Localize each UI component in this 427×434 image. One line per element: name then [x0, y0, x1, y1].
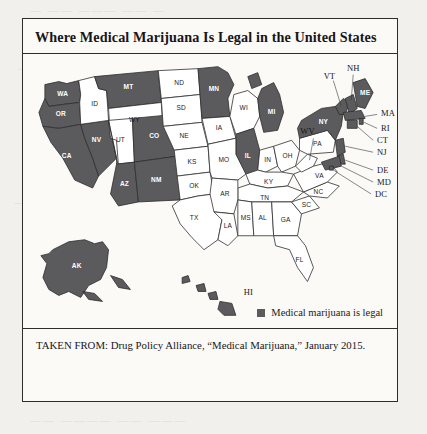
state-label-NE: NE — [179, 132, 189, 139]
state-RI[interactable] — [359, 118, 363, 124]
state-label-MA: MA — [381, 108, 396, 118]
leader-line-NJ — [345, 146, 373, 152]
figure-frame: Where Medical Marijuana Is Legal in the … — [22, 18, 398, 402]
state-label-CT: CT — [377, 135, 389, 145]
leader-line-VT — [333, 81, 341, 107]
state-label-MD: MD — [377, 177, 391, 187]
state-label-KY: KY — [264, 178, 274, 185]
us-choropleth-map: WA OR CA NV ID MT WY UT CO AZ NM ND SD N… — [23, 54, 397, 328]
state-label-TN: TN — [260, 194, 269, 201]
state-label-VA: VA — [315, 172, 324, 179]
state-label-NY: NY — [319, 118, 329, 125]
legend-label-legal: Medical marijuana is legal — [271, 307, 383, 318]
leader-line-CT — [357, 126, 373, 140]
state-label-OH: OH — [282, 152, 292, 159]
state-CT[interactable] — [347, 120, 357, 128]
state-label-NV: NV — [92, 136, 102, 143]
state-label-MO: MO — [218, 156, 229, 163]
leader-line-RI — [364, 122, 377, 128]
state-label-WA: WA — [57, 91, 68, 98]
state-label-NC: NC — [313, 188, 323, 195]
scan-bleed-text: —— ———— —— ——— — [30, 414, 187, 426]
state-WI[interactable] — [230, 91, 260, 135]
leader-line-DE — [345, 160, 373, 170]
state-label-IN: IN — [264, 156, 271, 163]
state-label-IA: IA — [216, 124, 223, 131]
state-label-LA: LA — [224, 222, 233, 229]
state-FL[interactable] — [274, 236, 314, 282]
state-label-MS: MS — [241, 214, 252, 221]
leader-line-DC — [333, 170, 371, 194]
state-label-SD: SD — [176, 104, 186, 111]
state-label-DE: DE — [377, 165, 388, 175]
state-label-TX: TX — [190, 214, 199, 221]
state-label-ID: ID — [91, 100, 98, 107]
state-label-KS: KS — [188, 158, 198, 165]
state-label-FL: FL — [295, 256, 303, 263]
state-label-UT: UT — [116, 136, 125, 143]
state-label-ME: ME — [360, 89, 371, 96]
state-label-VT: VT — [324, 71, 336, 81]
state-label-HI: HI — [244, 287, 253, 297]
state-label-DC: DC — [375, 189, 387, 199]
state-label-WY: WY — [129, 116, 140, 123]
state-label-WI: WI — [240, 104, 248, 111]
state-label-NM: NM — [151, 176, 162, 183]
state-label-AR: AR — [220, 190, 230, 197]
figure-title: Where Medical Marijuana Is Legal in the … — [35, 29, 385, 46]
leader-line-MA — [365, 114, 377, 116]
state-label-NJ: NJ — [377, 147, 387, 157]
state-label-GA: GA — [281, 216, 291, 223]
state-label-OK: OK — [189, 182, 199, 189]
state-label-AL: AL — [259, 214, 268, 221]
state-DC[interactable] — [329, 166, 333, 170]
state-label-ND: ND — [174, 79, 184, 86]
legend-swatch-legal — [257, 309, 265, 317]
state-NJ[interactable] — [335, 138, 345, 156]
state-label-OR: OR — [56, 110, 66, 117]
state-label-MN: MN — [209, 85, 220, 92]
source-caption: TAKEN FROM: Drug Policy Alliance, “Medic… — [23, 329, 397, 354]
state-label-CO: CO — [149, 132, 159, 139]
state-HI[interactable] — [182, 276, 236, 316]
state-label-WV: WV — [300, 126, 315, 136]
state-label-IL: IL — [245, 152, 251, 159]
map-legend: Medical marijuana is legal — [257, 307, 383, 318]
state-label-AZ: AZ — [120, 180, 129, 187]
state-label-SC: SC — [302, 201, 312, 208]
map-svg: WA OR CA NV ID MT WY UT CO AZ NM ND SD N… — [23, 54, 397, 328]
state-label-PA: PA — [313, 140, 322, 147]
state-label-MI: MI — [268, 108, 276, 115]
state-MN[interactable] — [198, 67, 234, 119]
state-label-NH: NH — [347, 63, 359, 73]
state-AK[interactable] — [41, 240, 131, 302]
state-label-CA: CA — [62, 152, 72, 159]
state-label-RI: RI — [381, 123, 390, 133]
state-label-MT: MT — [124, 83, 134, 90]
scan-bleed-text: — —— ——— —— — — [30, 4, 166, 16]
state-label-AK: AK — [72, 262, 82, 269]
